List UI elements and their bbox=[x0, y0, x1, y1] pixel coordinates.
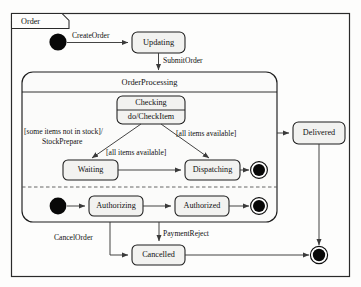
transition-submit-order-label: SubmitOrder bbox=[163, 56, 203, 65]
state-dispatching-label: Dispatching bbox=[193, 165, 233, 174]
uml-state-diagram: Order Updating CreateOrder SubmitOrder O… bbox=[0, 0, 361, 287]
state-authorized-label: Authorized bbox=[184, 201, 221, 210]
transition-payment-reject-label: PaymentReject bbox=[163, 229, 210, 238]
transition-cancel-order bbox=[110, 222, 128, 255]
guard-all-available-mid: [all items available] bbox=[106, 148, 166, 157]
state-waiting-label: Waiting bbox=[78, 165, 104, 174]
composite-state-label: OrderProcessing bbox=[122, 78, 179, 87]
guard-all-available-right: [all items available] bbox=[176, 129, 236, 138]
state-checking-label: Checking bbox=[135, 98, 166, 107]
final-state-bottom-dot bbox=[313, 249, 325, 261]
transition-create-order-label: CreateOrder bbox=[72, 31, 110, 40]
state-authorizing-label: Authorizing bbox=[96, 201, 136, 210]
state-checking-activity: do/CheckItem bbox=[128, 112, 175, 121]
state-cancelled-label: Cancelled bbox=[142, 250, 175, 259]
state-updating-label: Updating bbox=[143, 38, 175, 47]
diagram-canvas: Order Updating CreateOrder SubmitOrder O… bbox=[0, 0, 361, 287]
final-state-region2-dot bbox=[253, 200, 265, 212]
action-stock-prepare: StockPrepare bbox=[42, 137, 83, 146]
initial-pseudostate-top bbox=[49, 33, 66, 50]
state-delivered-label: Delivered bbox=[303, 128, 335, 137]
final-state-region1-dot bbox=[253, 164, 265, 176]
transition-cancel-order-label: CancelOrder bbox=[54, 233, 93, 242]
initial-pseudostate-region2 bbox=[50, 198, 67, 215]
guard-not-in-stock: [some items not in stock]/ bbox=[24, 127, 104, 136]
order-frame-label: Order bbox=[21, 17, 40, 26]
